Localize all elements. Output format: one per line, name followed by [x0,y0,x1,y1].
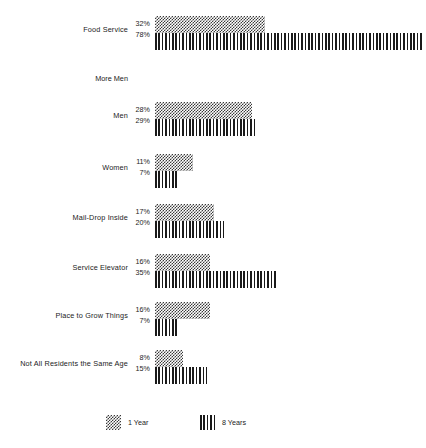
row-value-8-years: 20% [110,217,150,228]
bar-8-years [155,367,207,384]
bar-8-years [155,271,276,288]
row-value-8-years: 35% [110,267,150,278]
row-bars [155,204,224,242]
row-bars [155,254,276,292]
row-value-8-years: 7% [110,315,150,326]
row-values: 17%20% [110,206,150,228]
row-label: Place to Grow Things [0,311,128,320]
row-value-8-years: 29% [110,115,150,126]
row-value-1-year: 16% [110,256,150,267]
section-note-more-men: More Men [0,74,128,83]
bar-8-years [155,221,224,238]
row-bars [155,350,207,388]
bar-8-years [155,171,179,188]
bar-8-years [155,33,424,50]
bar-8-years [155,319,179,336]
legend-label-8-years: 8 Years [222,418,246,427]
bar-chart: Food Service32%78%Men28%29%Women11%7%Mai… [0,0,426,448]
row-value-8-years: 7% [110,167,150,178]
row-label: Service Elevator [0,263,128,272]
chart-row: Food Service32%78% [0,14,426,56]
bar-1-year [155,254,210,271]
row-value-1-year: 11% [110,156,150,167]
bar-8-years [155,119,255,136]
bar-1-year [155,204,214,221]
row-value-1-year: 28% [110,104,150,115]
chart-row: Not All Residents the Same Age8%15% [0,348,426,390]
row-value-1-year: 16% [110,304,150,315]
chart-row: Service Elevator16%35% [0,252,426,294]
row-value-1-year: 17% [110,206,150,217]
chart-row: Place to Grow Things16%7% [0,300,426,342]
bar-1-year [155,350,183,367]
row-bars [155,16,424,54]
row-bars [155,302,210,340]
legend-swatch-stripes-icon [200,415,215,430]
bar-1-year [155,302,210,319]
row-bars [155,154,193,192]
row-label: Men [0,111,128,120]
bar-1-year [155,154,193,171]
row-value-8-years: 78% [110,29,150,40]
chart-row: Men28%29% [0,100,426,142]
row-value-8-years: 15% [110,363,150,374]
row-label: Food Service [0,25,128,34]
row-values: 32%78% [110,18,150,40]
row-values: 16%35% [110,256,150,278]
row-value-1-year: 8% [110,352,150,363]
chart-row: Mail-Drop Inside17%20% [0,202,426,244]
legend-item-8-years: 8 Years [200,412,246,432]
bar-1-year [155,16,265,33]
row-bars [155,102,255,140]
row-label: Women [0,163,128,172]
legend-swatch-dots-icon [106,415,121,430]
legend-label-1-year: 1 Year [128,418,148,427]
row-values: 16%7% [110,304,150,326]
chart-legend: 1 Year 8 Years [0,412,426,436]
row-label: Not All Residents the Same Age [0,359,128,368]
legend-item-1-year: 1 Year [106,412,148,432]
row-values: 8%15% [110,352,150,374]
row-value-1-year: 32% [110,18,150,29]
row-label: Mail-Drop Inside [0,213,128,222]
row-values: 11%7% [110,156,150,178]
chart-row: Women11%7% [0,152,426,194]
bar-1-year [155,102,252,119]
row-values: 28%29% [110,104,150,126]
